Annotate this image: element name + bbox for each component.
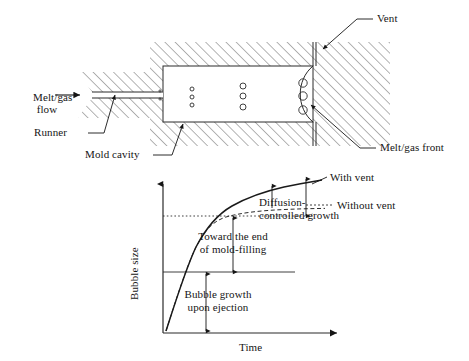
annotation-bubble-growth-upon-ejection: Bubble growth upon ejection <box>166 288 270 313</box>
mold-diagram-group <box>55 19 390 155</box>
chart-x-axis-label: Time <box>239 341 262 354</box>
series-label-without-vent: Without vent <box>337 199 396 212</box>
runner-channel <box>92 92 163 98</box>
annotation-diffusion-controlled-growth: Diffusion- controlled growth <box>259 196 339 221</box>
vent-label: Vent <box>377 12 398 25</box>
figure-root: Melt/gas flow Runner Mold cavity Vent Me… <box>0 0 469 361</box>
chart-y-axis-label: Bubble size <box>128 247 141 300</box>
melt-gas-front-label: Melt/gas front <box>380 141 444 154</box>
annotation-toward-end-of-mold-filling: Toward the end of mold-filling <box>178 230 288 255</box>
with-vent-leader-line <box>312 177 327 184</box>
mold-cavity-outline <box>163 66 313 122</box>
series-label-with-vent: With vent <box>330 171 374 184</box>
mold-cavity-label: Mold cavity <box>85 148 140 161</box>
melt-gas-flow-label: Melt/gas flow <box>16 78 78 128</box>
runner-label: Runner <box>34 126 67 139</box>
